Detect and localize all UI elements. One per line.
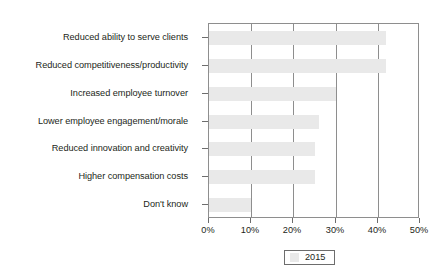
bar-chart: Reduced ability to serve clientsReduced …	[0, 0, 438, 276]
bar	[209, 115, 319, 129]
bar	[209, 31, 386, 45]
category-label: Lower employee engagement/morale	[38, 107, 188, 135]
bar	[209, 198, 251, 212]
plot-area	[208, 23, 419, 218]
x-axis-tick	[208, 218, 209, 223]
bar	[209, 142, 315, 156]
bars-layer	[209, 24, 418, 217]
category-label: Reduced innovation and creativity	[52, 134, 188, 162]
x-axis-label: 40%	[368, 225, 386, 235]
category-label: Reduced ability to serve clients	[63, 23, 188, 51]
x-axis-tick	[335, 218, 336, 223]
bar	[209, 170, 315, 184]
x-axis-label: 10%	[241, 225, 259, 235]
x-axis-label: 50%	[410, 225, 428, 235]
legend-swatch-2015	[290, 253, 299, 262]
x-axis-label: 0%	[201, 225, 214, 235]
category-label: Increased employee turnover	[70, 79, 188, 107]
x-axis-tick	[250, 218, 251, 223]
bar	[209, 59, 386, 73]
x-axis-label: 20%	[283, 225, 301, 235]
x-axis-tick	[419, 218, 420, 223]
category-label: Reduced competitiveness/productivity	[36, 51, 188, 79]
x-axis-tick	[292, 218, 293, 223]
category-label: Higher compensation costs	[78, 162, 188, 190]
legend-label-2015: 2015	[305, 253, 325, 262]
legend: 2015	[284, 250, 335, 265]
category-label: Don't know	[143, 190, 188, 218]
x-axis-label: 30%	[326, 225, 344, 235]
bar	[209, 87, 336, 101]
category-axis-labels: Reduced ability to serve clientsReduced …	[0, 23, 196, 218]
x-axis-tick	[377, 218, 378, 223]
